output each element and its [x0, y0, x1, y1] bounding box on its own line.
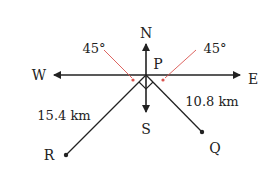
point-q-dot: [200, 130, 204, 134]
label-distance-pq: 10.8 km: [185, 94, 238, 109]
angle-leader-left: [104, 50, 132, 78]
label-west: W: [32, 67, 47, 83]
angle-leader-right: [165, 50, 196, 78]
angle-dot-left: [131, 78, 134, 81]
label-distance-pr: 15.4 km: [37, 108, 90, 123]
label-south: S: [141, 121, 151, 137]
label-east: E: [248, 71, 258, 87]
label-point-q: Q: [209, 140, 220, 156]
label-north: N: [140, 25, 152, 41]
label-angle-left: 45°: [82, 41, 105, 56]
label-point-p: P: [153, 56, 162, 72]
point-r-dot: [64, 153, 68, 157]
label-angle-right: 45°: [203, 41, 226, 56]
angle-dot-right: [161, 78, 164, 81]
compass-diagram: N S W E P R Q 45° 45° 15.4 km 10.8 km: [0, 0, 267, 182]
label-point-r: R: [44, 147, 55, 163]
